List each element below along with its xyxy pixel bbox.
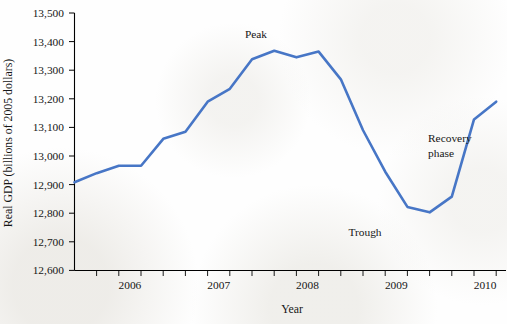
chart-canvas: 13,500 13,400 13,300 13,200 13,100 13,00… bbox=[0, 0, 507, 324]
y-tick-label: 12,900 bbox=[33, 179, 65, 191]
annotation-recovery-line1: Recovery bbox=[428, 132, 472, 144]
x-axis-minor-ticks bbox=[97, 271, 497, 277]
annotation-peak: Peak bbox=[245, 28, 267, 40]
x-tick-label: 2006 bbox=[119, 279, 142, 291]
y-tick-label: 13,500 bbox=[33, 7, 65, 19]
x-tick-label: 2007 bbox=[207, 279, 230, 291]
y-tick-label: 12,700 bbox=[33, 236, 65, 248]
y-tick-label: 12,600 bbox=[33, 264, 65, 276]
y-tick-label: 12,800 bbox=[33, 207, 65, 219]
x-axis-title: Year bbox=[281, 302, 303, 316]
x-tick-label: 2008 bbox=[296, 279, 319, 291]
x-tick-label: 2010 bbox=[474, 279, 497, 291]
annotation-recovery-line2: phase bbox=[428, 147, 454, 159]
y-tick-label: 13,400 bbox=[33, 36, 65, 48]
x-tick-label: 2009 bbox=[385, 279, 408, 291]
y-axis-ticks bbox=[69, 13, 75, 270]
annotation-trough: Trough bbox=[348, 226, 381, 238]
x-axis-tick-labels: 2006 2007 2008 2009 2010 bbox=[119, 279, 497, 291]
chart-figure: 13,500 13,400 13,300 13,200 13,100 13,00… bbox=[0, 0, 507, 324]
y-tick-label: 13,100 bbox=[33, 121, 65, 133]
y-axis-tick-labels: 13,500 13,400 13,300 13,200 13,100 13,00… bbox=[33, 7, 65, 276]
y-tick-label: 13,000 bbox=[33, 150, 65, 162]
y-axis-title: Real GDP (billions of 2005 dollars) bbox=[1, 59, 15, 227]
y-tick-label: 13,300 bbox=[33, 64, 65, 76]
y-tick-label: 13,200 bbox=[33, 93, 65, 105]
